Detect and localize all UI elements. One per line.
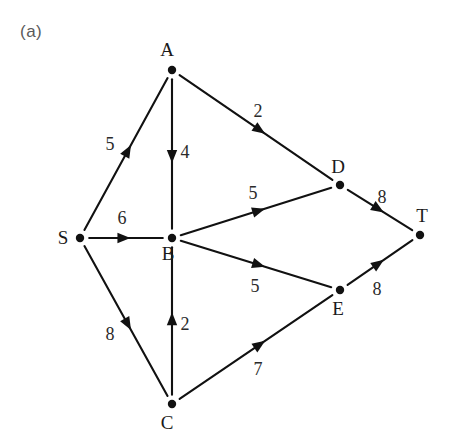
edges-layer xyxy=(84,75,412,399)
node-label-s: S xyxy=(58,227,69,248)
node-t xyxy=(416,231,424,239)
arrowhead-a-b xyxy=(167,150,177,163)
node-label-e: E xyxy=(332,298,344,319)
edge-weight-c-e: 7 xyxy=(254,359,263,379)
edge-weight-a-d: 2 xyxy=(254,101,263,121)
arrowhead-e-t xyxy=(370,260,384,272)
node-c xyxy=(168,400,176,408)
arrowhead-c-b xyxy=(167,312,177,325)
node-a xyxy=(168,66,176,74)
node-label-b: B xyxy=(162,243,175,264)
edge-weights-layer: 56842275588 xyxy=(106,101,387,379)
node-label-c: C xyxy=(161,412,174,433)
directed-graph-canvas: SABCDET 56842275588 xyxy=(0,0,450,447)
arrowhead-a-d xyxy=(252,122,266,134)
node-label-a: A xyxy=(160,39,174,60)
nodes-layer: SABCDET xyxy=(58,39,428,433)
arrowhead-s-a xyxy=(120,145,131,159)
edge-weight-s-b: 6 xyxy=(118,208,127,228)
edge-weight-s-a: 5 xyxy=(106,134,115,154)
arrowhead-s-c xyxy=(120,316,131,330)
edge-weight-s-c: 8 xyxy=(106,324,115,344)
arrowhead-c-e xyxy=(251,341,265,353)
edge-weight-b-e: 5 xyxy=(251,276,260,296)
node-label-d: D xyxy=(331,156,345,177)
arrowhead-b-e xyxy=(251,258,265,268)
node-label-t: T xyxy=(416,205,428,226)
arrowhead-b-d xyxy=(251,208,265,218)
edge-weight-b-d: 5 xyxy=(249,183,258,203)
edge-weight-a-b: 4 xyxy=(181,142,190,162)
node-s xyxy=(76,234,84,242)
node-e xyxy=(336,286,344,294)
edge-weight-d-t: 8 xyxy=(378,187,387,207)
node-b xyxy=(168,234,176,242)
edge-weight-e-t: 8 xyxy=(373,279,382,299)
arrowhead-s-b xyxy=(117,233,130,243)
graph-figure: (a) SABCDET 56842275588 xyxy=(0,0,450,447)
node-d xyxy=(336,181,344,189)
edge-weight-c-b: 2 xyxy=(181,314,190,334)
